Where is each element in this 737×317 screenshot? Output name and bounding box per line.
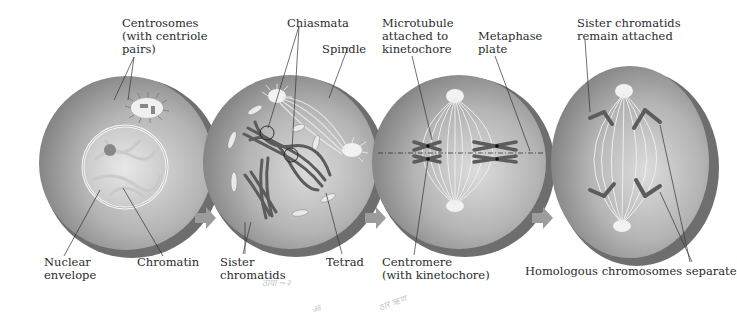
label-centrosomes: Centrosomes (with centriole pairs) — [122, 17, 208, 56]
label-spindle: Spindle — [322, 43, 366, 56]
label-tetrad: Tetrad — [326, 256, 364, 269]
label-microtubule: Microtubule attached to kinetochore — [382, 17, 454, 56]
cell-stage-4 — [551, 66, 719, 266]
label-centromere: Centromere (with kinetochore) — [382, 256, 490, 282]
nucleus-icon — [83, 126, 167, 208]
label-metaphase-plate: Metaphase plate — [478, 30, 542, 56]
label-chromatin: Chromatin — [137, 256, 199, 269]
label-chiasmata: Chiasmata — [287, 17, 349, 30]
handwritten-note: ठाया ~२ — [262, 276, 291, 289]
handwritten-note: ॐ — [312, 302, 320, 315]
cell-stage-3 — [372, 75, 555, 257]
cell-stage-1 — [39, 76, 222, 258]
label-nuclear-envelope: Nuclear envelope — [44, 256, 96, 282]
label-homologous-separate: Homologous chromosomes separate — [525, 265, 737, 278]
label-sister-chromatids-remain: Sister chromatids remain attached — [577, 17, 681, 43]
